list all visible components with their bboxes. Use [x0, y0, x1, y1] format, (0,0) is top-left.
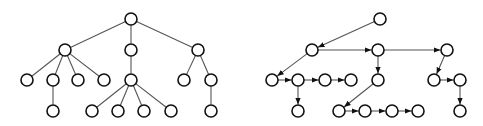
edge-b1-b1a	[97, 84, 126, 107]
tree-node-b	[125, 44, 137, 56]
tree-node-b1c	[386, 105, 398, 117]
tree-node-a2a	[47, 105, 59, 117]
tree-node-c2	[205, 74, 217, 86]
edge-c-c2	[200, 56, 208, 75]
undirected-tree	[21, 13, 217, 117]
tree-node-a1	[266, 74, 278, 86]
tree-node-a2	[47, 74, 59, 86]
tree-node-a	[59, 44, 71, 56]
tree-node-b1	[125, 74, 137, 86]
tree-node-c2	[454, 74, 466, 86]
arrow-edge-r-a	[318, 21, 375, 47]
tree-node-b1d	[165, 105, 177, 117]
tree-node-a3	[72, 74, 84, 86]
tree-node-r	[125, 13, 137, 25]
tree-node-a4	[98, 74, 110, 86]
edge-r-a	[71, 22, 126, 48]
arrow-edge-a-a1	[277, 54, 307, 77]
tree-node-b1d	[412, 105, 424, 117]
tree-node-c	[192, 44, 204, 56]
tree-node-b	[372, 44, 384, 56]
tree-node-a4	[345, 74, 357, 86]
tree-node-c2a	[454, 105, 466, 117]
edge-r-c	[136, 22, 192, 48]
tree-node-r	[374, 13, 386, 25]
edge-a-a2	[55, 56, 62, 74]
tree-node-a2	[292, 74, 304, 86]
edge-c-c1	[187, 55, 196, 74]
edge-b1-b1d	[136, 84, 166, 107]
tree-node-a	[306, 44, 318, 56]
tree-node-c	[441, 44, 453, 56]
tree-node-b1c	[138, 105, 150, 117]
tree-node-b1a	[333, 105, 345, 117]
arrow-edge-c-c1	[437, 56, 445, 75]
tree-node-b1b	[112, 105, 124, 117]
arrow-edge-b1-b1a	[344, 84, 373, 107]
edge-b1-b1c	[133, 86, 141, 105]
tree-node-c1	[428, 74, 440, 86]
tree-node-b1	[372, 74, 384, 86]
edge-a-a3	[67, 56, 75, 75]
edge-a-a4	[70, 54, 99, 76]
tree-node-a1	[21, 74, 33, 86]
edge-b1-b1b	[121, 86, 129, 105]
tree-node-a3	[319, 74, 331, 86]
tree-node-c1	[178, 74, 190, 86]
tree-node-b1a	[86, 105, 98, 117]
directed-tree	[266, 13, 466, 117]
tree-node-a2a	[292, 105, 304, 117]
tree-node-c2a	[205, 105, 217, 117]
tree-node-b1b	[359, 105, 371, 117]
tree-diagram-canvas	[0, 0, 483, 126]
